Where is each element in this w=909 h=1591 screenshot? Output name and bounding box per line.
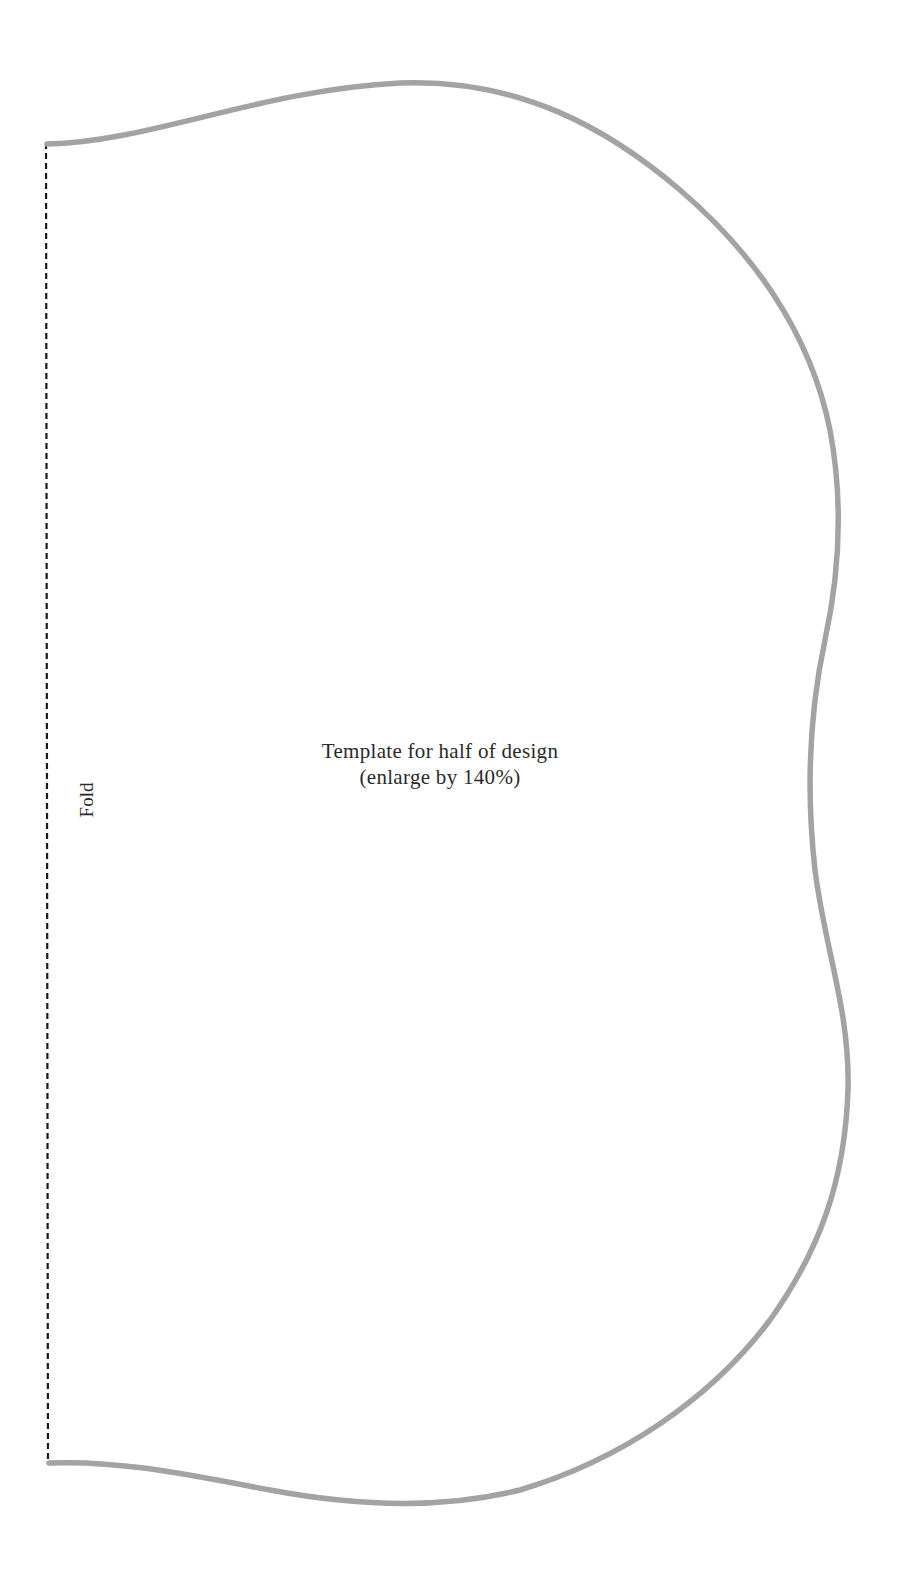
template-drawing [0,0,909,1591]
template-outline [47,83,848,1504]
caption-enlarge-note: (enlarge by 140%) [260,764,620,790]
template-caption: Template for half of design (enlarge by … [260,738,620,790]
fold-label: Fold [75,775,99,825]
caption-title: Template for half of design [260,738,620,764]
fold-line [46,143,48,1464]
